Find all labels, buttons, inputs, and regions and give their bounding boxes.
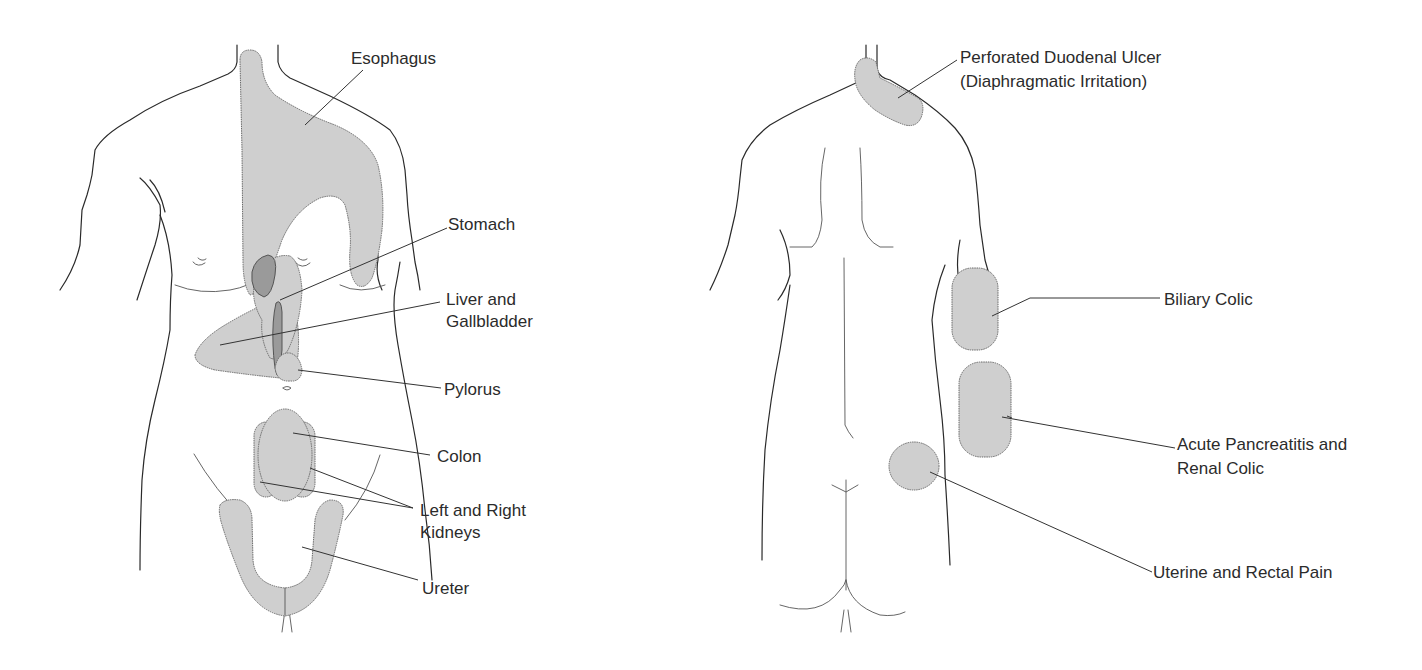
back-view: Perforated Duodenal Ulcer (Diaphragmatic… (710, 45, 1352, 632)
biliary-colic-region (952, 268, 998, 350)
label-liver-line1: Liver and (446, 290, 516, 309)
label-kidneys-line1: Left and Right (420, 501, 526, 520)
label-stomach: Stomach (448, 215, 515, 234)
colon-region (258, 409, 312, 501)
label-uterine-rectal-pain: Uterine and Rectal Pain (1153, 563, 1333, 582)
label-colon: Colon (437, 447, 481, 466)
label-ureter: Ureter (422, 579, 470, 598)
referred-pain-diagram: Esophagus Stomach Liver and Gallbladder … (0, 0, 1422, 670)
label-esophagus: Esophagus (351, 49, 436, 68)
ureter-region (219, 500, 343, 616)
uterine-rectal-region (889, 442, 939, 490)
pancreatitis-renal-colic-region (959, 362, 1011, 457)
label-kidneys-line2: Kidneys (420, 523, 480, 542)
perforated-duodenal-ulcer-region (855, 58, 923, 126)
label-liver-gallbladder: Liver and Gallbladder (446, 290, 533, 331)
label-pylorus: Pylorus (444, 380, 501, 399)
label-liver-line2: Gallbladder (446, 312, 533, 331)
label-ulcer-line2: (Diaphragmatic Irritation) (960, 72, 1147, 91)
front-view: Esophagus Stomach Liver and Gallbladder … (60, 45, 533, 632)
back-leader-lines (898, 60, 1175, 572)
label-kidneys: Left and Right Kidneys (420, 501, 531, 542)
label-pancreatitis-line2: Renal Colic (1177, 459, 1264, 478)
label-biliary-colic: Biliary Colic (1164, 290, 1253, 309)
label-ulcer-line1: Perforated Duodenal Ulcer (960, 48, 1162, 67)
label-pancreatitis-renal-colic: Acute Pancreatitis and Renal Colic (1177, 435, 1352, 478)
label-pancreatitis-line1: Acute Pancreatitis and (1177, 435, 1347, 454)
label-perforated-duodenal-ulcer: Perforated Duodenal Ulcer (Diaphragmatic… (960, 48, 1166, 91)
back-body-outline (710, 45, 992, 632)
